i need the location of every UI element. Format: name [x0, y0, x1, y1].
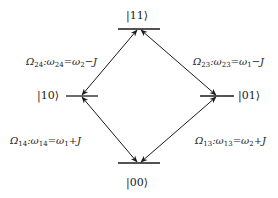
- arrow-00-10: [82, 97, 137, 162]
- level-label-00: |00⟩: [126, 177, 148, 188]
- transition-label-23: Ω23:ω23=ω1−J: [193, 57, 264, 69]
- energy-level-diagram: |11⟩ |10⟩ |01⟩ |00⟩ Ω24:ω24=ω2−J Ω23:ω23…: [0, 0, 278, 198]
- level-label-01: |01⟩: [238, 90, 260, 101]
- transition-label-24: Ω24:ω24=ω2−J: [26, 57, 97, 69]
- transition-label-14: Ω14:ω14=ω1+J: [10, 136, 81, 148]
- level-label-10: |10⟩: [37, 90, 59, 101]
- transition-label-13: Ω13:ω13=ω2+J: [195, 136, 266, 148]
- level-label-11: |11⟩: [126, 10, 148, 21]
- arrow-00-01: [141, 97, 216, 162]
